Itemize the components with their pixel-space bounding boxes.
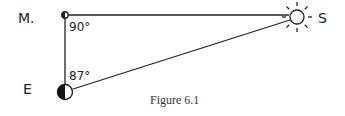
angle-at-moon: 90° [69,20,90,34]
sun-icon [282,2,312,32]
triangle-diagram: M. E S 90° 87° Figure 6.1 [0,0,345,116]
earth-label: E [23,81,32,97]
moon-label: M. [18,10,35,26]
angle-at-earth: 87° [69,69,90,83]
moon-icon [62,12,68,18]
figure-caption: Figure 6.1 [150,93,199,107]
earth-icon [58,85,73,100]
sun-label: S [318,10,327,26]
earth-sun-line [73,20,290,89]
